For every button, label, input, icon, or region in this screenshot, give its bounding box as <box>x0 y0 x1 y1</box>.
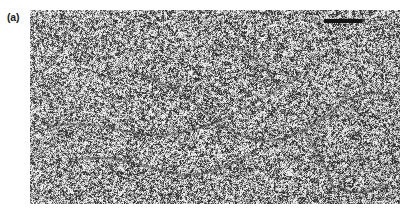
panel-label: (a) <box>7 11 19 23</box>
scale-bar <box>324 19 362 23</box>
micrograph-panel <box>30 10 400 204</box>
electron-micrograph-image <box>30 10 400 204</box>
figure-root: (a) <box>0 0 417 216</box>
